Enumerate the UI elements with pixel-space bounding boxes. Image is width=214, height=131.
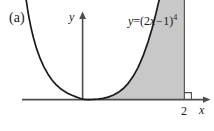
equation-close: 1) [163,14,173,28]
right-angle-marker [184,93,191,100]
equation-open: (2 [140,14,150,28]
y-axis-label: y [69,11,74,23]
figure-panel: (a) y x 2 y=(2x−1)4 [0,0,214,131]
equation-exponent: 4 [173,13,177,22]
x-axis-tick-label-2: 2 [181,105,187,117]
x-axis-label: x [199,104,204,116]
curve-equation-label: y=(2x−1)4 [128,15,177,27]
panel-label: (a) [9,11,25,25]
y-axis-arrowhead [79,12,86,20]
x-axis-arrowhead [203,96,211,102]
